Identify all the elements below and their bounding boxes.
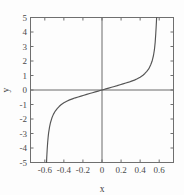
y-tick-label: 1 — [23, 71, 28, 81]
x-tick-label: -0.6 — [38, 165, 53, 175]
y-tick-label: -1 — [20, 100, 28, 110]
y-tick-label: -2 — [20, 114, 28, 124]
y-tick-label: 0 — [23, 85, 28, 95]
y-tick-label: 3 — [23, 42, 28, 52]
x-tick-label: -0.4 — [57, 165, 72, 175]
x-tick-label: 0.4 — [135, 165, 147, 175]
x-tick-label: 0.2 — [115, 165, 126, 175]
x-axis-title: x — [100, 184, 105, 194]
y-axis-title: y — [1, 87, 11, 92]
x-tick-label: 0.6 — [154, 165, 166, 175]
y-tick-label: -3 — [20, 129, 28, 139]
y-tick-label: 5 — [23, 13, 28, 23]
y-tick-label: -5 — [20, 158, 28, 168]
y-tick-label: 4 — [23, 27, 28, 37]
x-tick-label: -0.2 — [76, 165, 90, 175]
y-tick-label: 2 — [23, 56, 28, 66]
function-plot: -0.6-0.4-0.200.20.40.6 -5-4-3-2-1012345 … — [0, 0, 184, 195]
y-tick-label: -4 — [20, 143, 28, 153]
figure-container: -0.6-0.4-0.200.20.40.6 -5-4-3-2-1012345 … — [0, 0, 184, 195]
x-tick-label: 0 — [100, 165, 105, 175]
